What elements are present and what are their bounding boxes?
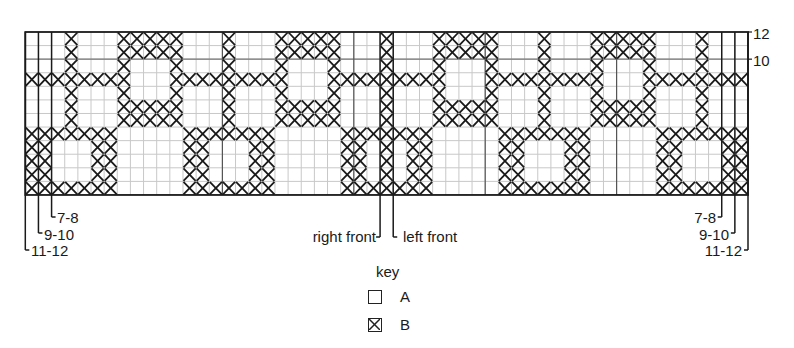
row-label: 12 bbox=[753, 26, 770, 41]
front-label: left front bbox=[403, 229, 457, 244]
empty-square-icon bbox=[368, 290, 382, 304]
size-label: 9-10 bbox=[44, 227, 74, 242]
row-label: 10 bbox=[753, 53, 770, 68]
key-title: key bbox=[376, 263, 399, 280]
size-label: 11-12 bbox=[31, 243, 68, 258]
size-label: 7-8 bbox=[57, 210, 79, 225]
crossed-square-icon bbox=[368, 318, 382, 332]
key-label-a: A bbox=[400, 288, 410, 305]
key-item-b: B bbox=[368, 316, 410, 333]
size-label: 9-10 bbox=[699, 227, 729, 242]
key-label-b: B bbox=[400, 316, 410, 333]
key-item-a: A bbox=[368, 288, 410, 305]
size-label: 7-8 bbox=[694, 210, 716, 225]
front-label: right front bbox=[313, 229, 376, 244]
size-label: 11-12 bbox=[705, 243, 742, 258]
